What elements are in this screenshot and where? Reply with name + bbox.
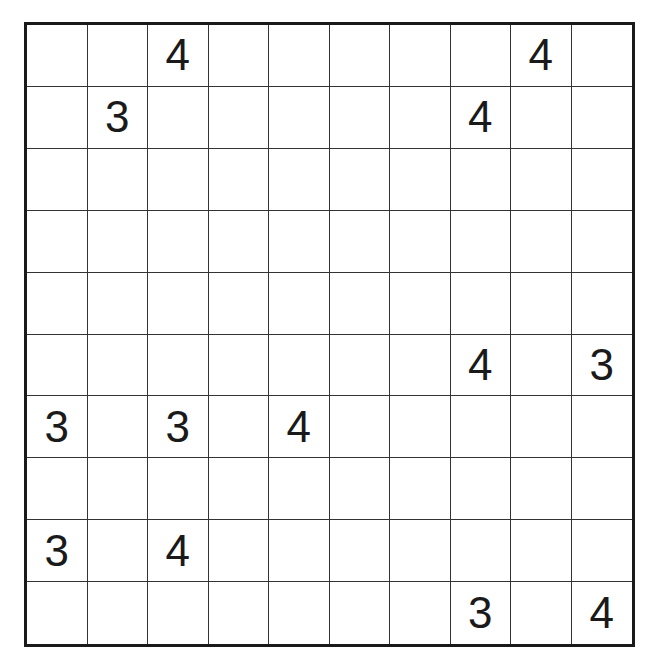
empty-cell[interactable] xyxy=(511,582,572,644)
clue-cell[interactable]: 4 xyxy=(572,582,633,644)
empty-cell[interactable] xyxy=(209,520,270,582)
empty-cell[interactable] xyxy=(511,149,572,211)
empty-cell[interactable] xyxy=(390,396,451,458)
empty-cell[interactable] xyxy=(451,520,512,582)
clue-cell[interactable]: 4 xyxy=(269,396,330,458)
empty-cell[interactable] xyxy=(88,273,149,335)
empty-cell[interactable] xyxy=(390,582,451,644)
empty-cell[interactable] xyxy=(451,149,512,211)
empty-cell[interactable] xyxy=(451,458,512,520)
empty-cell[interactable] xyxy=(451,211,512,273)
empty-cell[interactable] xyxy=(88,396,149,458)
empty-cell[interactable] xyxy=(269,273,330,335)
empty-cell[interactable] xyxy=(572,396,633,458)
empty-cell[interactable] xyxy=(572,273,633,335)
empty-cell[interactable] xyxy=(451,273,512,335)
clue-cell[interactable]: 4 xyxy=(511,25,572,87)
empty-cell[interactable] xyxy=(88,520,149,582)
empty-cell[interactable] xyxy=(209,87,270,149)
empty-cell[interactable] xyxy=(269,211,330,273)
empty-cell[interactable] xyxy=(269,335,330,397)
empty-cell[interactable] xyxy=(209,458,270,520)
empty-cell[interactable] xyxy=(269,520,330,582)
empty-cell[interactable] xyxy=(330,335,391,397)
empty-cell[interactable] xyxy=(209,582,270,644)
clue-cell[interactable]: 4 xyxy=(451,335,512,397)
empty-cell[interactable] xyxy=(209,149,270,211)
empty-cell[interactable] xyxy=(451,396,512,458)
empty-cell[interactable] xyxy=(148,211,209,273)
empty-cell[interactable] xyxy=(330,520,391,582)
clue-cell[interactable]: 3 xyxy=(27,396,88,458)
empty-cell[interactable] xyxy=(330,396,391,458)
empty-cell[interactable] xyxy=(27,335,88,397)
empty-cell[interactable] xyxy=(269,458,330,520)
empty-cell[interactable] xyxy=(572,25,633,87)
empty-cell[interactable] xyxy=(572,211,633,273)
clue-cell[interactable]: 3 xyxy=(451,582,512,644)
empty-cell[interactable] xyxy=(209,396,270,458)
empty-cell[interactable] xyxy=(330,87,391,149)
empty-cell[interactable] xyxy=(209,335,270,397)
empty-cell[interactable] xyxy=(390,520,451,582)
empty-cell[interactable] xyxy=(209,211,270,273)
empty-cell[interactable] xyxy=(572,149,633,211)
empty-cell[interactable] xyxy=(390,149,451,211)
empty-cell[interactable] xyxy=(148,149,209,211)
empty-cell[interactable] xyxy=(390,25,451,87)
empty-cell[interactable] xyxy=(390,273,451,335)
empty-cell[interactable] xyxy=(330,582,391,644)
clue-cell[interactable]: 4 xyxy=(148,25,209,87)
empty-cell[interactable] xyxy=(330,149,391,211)
empty-cell[interactable] xyxy=(209,273,270,335)
empty-cell[interactable] xyxy=(27,149,88,211)
empty-cell[interactable] xyxy=(451,25,512,87)
clue-cell[interactable]: 3 xyxy=(88,87,149,149)
empty-cell[interactable] xyxy=(511,396,572,458)
empty-cell[interactable] xyxy=(511,273,572,335)
empty-cell[interactable] xyxy=(572,87,633,149)
empty-cell[interactable] xyxy=(88,458,149,520)
empty-cell[interactable] xyxy=(27,25,88,87)
empty-cell[interactable] xyxy=(27,458,88,520)
empty-cell[interactable] xyxy=(27,273,88,335)
empty-cell[interactable] xyxy=(572,458,633,520)
empty-cell[interactable] xyxy=(88,211,149,273)
empty-cell[interactable] xyxy=(88,335,149,397)
clue-cell[interactable]: 4 xyxy=(148,520,209,582)
empty-cell[interactable] xyxy=(269,149,330,211)
empty-cell[interactable] xyxy=(330,211,391,273)
empty-cell[interactable] xyxy=(269,87,330,149)
clue-cell[interactable]: 4 xyxy=(451,87,512,149)
empty-cell[interactable] xyxy=(390,87,451,149)
empty-cell[interactable] xyxy=(269,582,330,644)
empty-cell[interactable] xyxy=(330,273,391,335)
empty-cell[interactable] xyxy=(390,211,451,273)
empty-cell[interactable] xyxy=(27,582,88,644)
clue-cell[interactable]: 3 xyxy=(572,335,633,397)
empty-cell[interactable] xyxy=(572,520,633,582)
empty-cell[interactable] xyxy=(511,335,572,397)
empty-cell[interactable] xyxy=(511,458,572,520)
empty-cell[interactable] xyxy=(88,149,149,211)
empty-cell[interactable] xyxy=(511,520,572,582)
empty-cell[interactable] xyxy=(148,273,209,335)
clue-cell[interactable]: 3 xyxy=(27,520,88,582)
empty-cell[interactable] xyxy=(269,25,330,87)
empty-cell[interactable] xyxy=(88,582,149,644)
empty-cell[interactable] xyxy=(148,87,209,149)
empty-cell[interactable] xyxy=(390,335,451,397)
empty-cell[interactable] xyxy=(88,25,149,87)
empty-cell[interactable] xyxy=(511,87,572,149)
empty-cell[interactable] xyxy=(209,25,270,87)
empty-cell[interactable] xyxy=(330,25,391,87)
empty-cell[interactable] xyxy=(27,211,88,273)
clue-cell[interactable]: 3 xyxy=(148,396,209,458)
empty-cell[interactable] xyxy=(27,87,88,149)
empty-cell[interactable] xyxy=(148,582,209,644)
empty-cell[interactable] xyxy=(148,335,209,397)
empty-cell[interactable] xyxy=(148,458,209,520)
empty-cell[interactable] xyxy=(330,458,391,520)
empty-cell[interactable] xyxy=(390,458,451,520)
empty-cell[interactable] xyxy=(511,211,572,273)
